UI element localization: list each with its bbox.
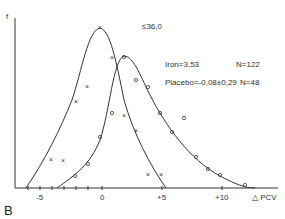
svg-text:×: × (85, 83, 89, 90)
svg-text:×: × (110, 54, 114, 61)
iron-n-label: N=122 (236, 60, 260, 69)
svg-text:×: × (122, 112, 126, 119)
svg-text:×: × (98, 24, 102, 31)
svg-text:×: × (134, 127, 138, 134)
x-tick-label: 0 (100, 193, 104, 202)
iron-label: Iron=3,53 (165, 60, 199, 69)
svg-text:×: × (74, 98, 78, 105)
x-axis-label: △ PCV (252, 193, 277, 202)
svg-text:×: × (49, 156, 53, 163)
x-tick-label: -5 (36, 193, 43, 202)
y-axis-label: f (6, 12, 8, 21)
placebo-label: Placebo=-0,08±0,29 (165, 78, 237, 87)
x-tick-label: +5 (157, 193, 166, 202)
panel-label: B (4, 203, 13, 218)
svg-text:×: × (146, 171, 150, 178)
placebo-n-label: N=48 (240, 78, 259, 87)
svg-text:×: × (61, 157, 65, 164)
svg-text:×: × (159, 171, 163, 178)
pcv-distribution-chart: × × × × × × × × × × (0, 0, 285, 219)
placebo-curve (57, 56, 255, 188)
iron-curve (26, 28, 166, 188)
threshold-label: ≤36,0 (142, 22, 162, 31)
x-tick-label: +10 (215, 193, 229, 202)
placebo-markers (73, 55, 246, 186)
